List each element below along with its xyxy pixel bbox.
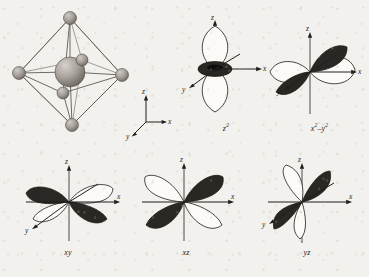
caption-z2-exponent: 2 (226, 122, 229, 128)
axis-label-y: y (181, 85, 186, 94)
axis-label-y: y (125, 132, 130, 141)
axis-triad-octahedron: z x y (125, 87, 172, 141)
lobe-light-lower-right (184, 202, 222, 228)
caption-orbital-x2-y2: x2–y2 (270, 124, 369, 133)
lobe-dark-lower-left (146, 202, 184, 228)
ligand-sphere-top (64, 12, 77, 25)
axis-label-x: x (230, 192, 235, 201)
caption-orbital-z2: z2 (176, 124, 276, 133)
axis-label-z: z (179, 155, 183, 164)
ligand-sphere-bottom (66, 119, 79, 132)
lobe-dark-upper-right (184, 175, 223, 202)
ligand-sphere-front (57, 87, 69, 99)
axis-label-z: z (305, 24, 309, 33)
lobe-light-upper-left (283, 165, 303, 202)
axis-label-y: y (261, 220, 266, 229)
axis-label-x: x (167, 117, 172, 126)
axis-label-x: x (357, 67, 362, 76)
panel-octahedral-complex: z x y (0, 0, 175, 140)
axis-label-y: y (276, 87, 281, 96)
axis-label-z: z (297, 155, 301, 164)
lobe-light-upper-left (145, 175, 184, 202)
d-orbital-figure: z x y z x (0, 0, 369, 277)
caption-orbital-xy: xy (12, 248, 124, 257)
axis-label-y: y (24, 226, 29, 235)
ligand-sphere-back (76, 54, 88, 66)
caption-orbital-xz: xz (132, 248, 240, 257)
axis-label-x: x (116, 192, 121, 201)
panel-orbital-x2-y2: z x y (270, 14, 369, 122)
panel-orbital-xy: z x y (12, 155, 124, 245)
lobe-light-lower-left (33, 202, 69, 222)
lobe-light-upper-right (69, 185, 113, 204)
lobe-dark-upper-right (302, 171, 331, 202)
caption-x2y2-exponent2: 2 (325, 122, 328, 128)
ligand-sphere-left (13, 67, 26, 80)
ligand-sphere-right (116, 69, 129, 82)
lobe-dark-lower-right (69, 202, 107, 223)
axis-label-z: z (64, 157, 68, 166)
axis-label-x: x (262, 64, 267, 73)
panel-orbital-z2: z x y (176, 14, 276, 122)
axis-label-x: x (348, 192, 353, 201)
panel-orbital-xz: z x (132, 155, 240, 245)
panel-orbital-yz: z x y (252, 155, 362, 245)
lobe-dark-upper-left (26, 187, 69, 204)
axis-label-z: z (141, 87, 145, 96)
caption-orbital-yz: yz (252, 248, 362, 257)
axis-label-z: z (210, 13, 214, 22)
